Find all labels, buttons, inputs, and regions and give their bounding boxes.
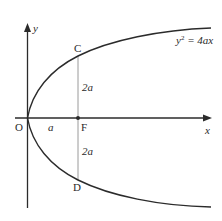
parabola-diagram: y x O C F D a 2a 2a y2 = 4ax (0, 0, 222, 221)
segment-fc-label: 2a (82, 81, 94, 93)
equation-rhs: = 4ax (184, 34, 213, 46)
focus-point (76, 116, 80, 120)
point-c-label: C (74, 42, 81, 54)
point-f-label: F (81, 121, 87, 133)
origin-label: O (15, 121, 23, 133)
x-axis-arrow-icon (203, 115, 212, 122)
equation-label: y2 = 4ax (175, 34, 213, 46)
y-axis-label: y (32, 22, 38, 34)
y-axis-arrow-icon (24, 23, 31, 32)
x-axis-label: x (204, 124, 210, 136)
segment-fd-label: 2a (82, 145, 94, 157)
segment-of-label: a (48, 121, 54, 133)
point-d-label: D (73, 181, 81, 193)
